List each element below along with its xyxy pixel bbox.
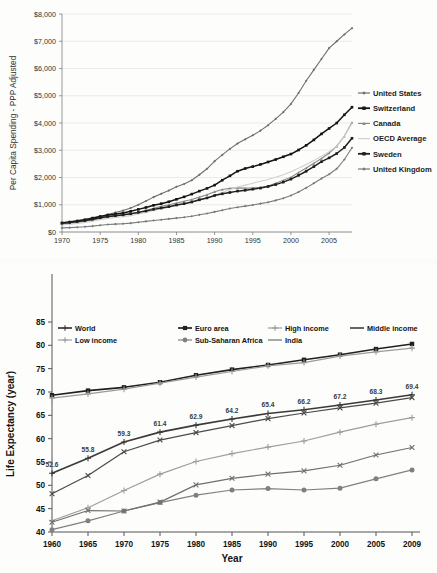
series-marker (85, 455, 91, 461)
data-point-label: 52.6 (46, 461, 59, 468)
series-marker (206, 197, 209, 200)
series-marker (175, 198, 178, 201)
series-marker (251, 188, 254, 191)
series-marker (183, 216, 186, 219)
legend-marker (183, 326, 187, 330)
data-point-label: 66.2 (298, 398, 311, 405)
series-marker (84, 226, 87, 229)
x-axis-tick-label: 2005 (321, 236, 337, 245)
series-marker (236, 206, 239, 209)
x-axis-tick-label: 1975 (92, 236, 108, 245)
series-marker (301, 407, 307, 413)
y-axis-tick-label: $1,000 (34, 200, 56, 209)
series-line-canada (62, 122, 352, 223)
x-axis-tick-label: 1970 (54, 236, 70, 245)
x-axis-tick-label: 1990 (259, 540, 278, 549)
series-marker (157, 471, 163, 477)
series-marker (229, 416, 235, 422)
x-axis-tick-label: 1965 (79, 540, 98, 549)
series-marker (175, 217, 178, 220)
series-marker (183, 202, 186, 205)
life-expectancy-svg: 4045505560657075808519601965197019751980… (0, 264, 437, 573)
health-spending-svg: $0$1,000$2,000$3,000$4,000$5,000$6,000$7… (0, 0, 437, 258)
series-marker (244, 205, 247, 208)
series-marker (114, 223, 117, 226)
y-axis-tick-label: $3,000 (34, 146, 56, 155)
series-line-united-states (62, 28, 352, 222)
legend-label: Sweden (373, 150, 402, 159)
series-marker (297, 174, 300, 177)
y-axis-tick-label: 75 (36, 365, 46, 374)
series-marker (213, 184, 216, 187)
legend-marker (362, 167, 365, 170)
series-marker (230, 488, 235, 493)
series-marker (84, 219, 87, 222)
legend-label: Sub-Saharan Africa (195, 336, 263, 345)
series-marker (251, 204, 254, 207)
series-marker (328, 127, 331, 130)
series-marker (122, 209, 125, 212)
x-axis-tick-label: 1985 (168, 236, 184, 245)
series-marker (91, 225, 94, 228)
series-marker (229, 191, 232, 194)
series-marker (160, 218, 163, 221)
legend-label: India (285, 336, 303, 345)
series-marker (267, 201, 270, 204)
y-axis-tick-label: $8,000 (34, 10, 56, 19)
x-axis-tick-label: 1960 (43, 540, 62, 549)
data-point-label: 61.4 (154, 420, 167, 427)
data-point-label: 62.9 (190, 413, 203, 420)
x-axis-tick-label: 2000 (283, 236, 299, 245)
series-marker (213, 211, 216, 214)
series-marker (145, 210, 148, 213)
series-marker (121, 439, 127, 445)
series-marker (337, 429, 343, 435)
legend-label: Low income (75, 336, 117, 345)
series-marker (259, 187, 262, 190)
chart-health-spending: $0$1,000$2,000$3,000$4,000$5,000$6,000$7… (0, 0, 437, 258)
series-marker (302, 488, 307, 493)
series-marker (145, 206, 148, 209)
y-axis-tick-label: $5,000 (34, 91, 56, 100)
series-marker (409, 415, 415, 421)
figure-page: $0$1,000$2,000$3,000$4,000$5,000$6,000$7… (0, 0, 437, 573)
data-point-label: 67.2 (334, 393, 347, 400)
series-marker (137, 211, 140, 214)
series-marker (266, 486, 271, 491)
series-marker (282, 197, 285, 200)
x-axis-tick-label: 2000 (331, 540, 350, 549)
series-marker (68, 221, 71, 224)
series-marker (244, 189, 247, 192)
x-axis-tick-label: 1985 (223, 540, 242, 549)
x-axis-tick-label: 2005 (367, 540, 386, 549)
legend-marker (272, 325, 277, 330)
y-axis-tick-label: $4,000 (34, 119, 56, 128)
legend-label: World (75, 324, 96, 333)
data-point-label: 55.8 (82, 446, 95, 453)
series-marker (206, 187, 209, 190)
series-marker (297, 149, 300, 152)
series-marker (274, 158, 277, 161)
series-marker (335, 152, 338, 155)
chart-life-expectancy: 4045505560657075808519601965197019751980… (0, 264, 437, 573)
series-marker (305, 144, 308, 147)
series-line-switzerland (62, 107, 352, 223)
y-axis-tick-label: 70 (36, 388, 46, 397)
series-marker (313, 165, 316, 168)
data-point-label: 59.3 (118, 430, 131, 437)
legend-label: Middle income (367, 324, 418, 333)
series-marker (121, 487, 127, 493)
y-axis-tick-label: 40 (36, 528, 46, 537)
series-marker (168, 200, 171, 203)
series-marker (99, 216, 102, 219)
series-marker (91, 218, 94, 221)
series-marker (76, 226, 79, 229)
series-marker (137, 221, 140, 224)
series-marker (259, 163, 262, 166)
x-axis-tick-label: 1995 (295, 540, 314, 549)
series-line-oecd-average (62, 124, 352, 225)
series-marker (49, 470, 55, 476)
series-marker (351, 137, 354, 140)
series-marker (301, 438, 307, 444)
series-marker (198, 199, 201, 202)
